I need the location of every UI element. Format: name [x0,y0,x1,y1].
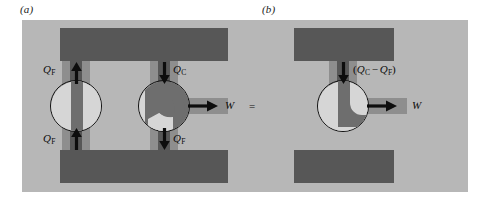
label-q-f-top-left-symbol: Q [43,63,51,75]
figure-canvas: (a) (b) [0,0,490,210]
label-w-panel-b-symbol: W [412,99,421,111]
label-q-difference-second-subscript: F [388,68,392,77]
label-q-f-bottom-right: QF [173,133,185,144]
label-q-difference-first-subscript: C [365,68,370,77]
label-q-f-bottom-right-subscript: F [181,137,185,146]
equals-sign: = [249,100,255,112]
panel-a-hot-reservoir-top [60,28,228,61]
panel-a-arrow-q-f-down-bottom [158,128,171,150]
label-q-f-bottom-left-symbol: Q [43,132,51,144]
panel-a-refrigerator-cycle [50,80,102,132]
panel-a-cold-reservoir-bottom [60,150,228,183]
heat-engine-cycle-graphic [139,81,190,132]
label-q-f-bottom-left: QF [43,133,55,144]
label-q-f-top-left-subscript: F [51,68,55,77]
refrigerator-cycle-graphic [51,81,102,132]
label-q-c-top-right: QC [173,64,186,75]
panel-b-arrow-q-diff-down [337,62,350,84]
label-q-difference-operator: − [372,63,378,75]
label-q-difference-second-symbol: Q [380,63,388,75]
label-q-difference-first-symbol: Q [357,63,365,75]
panel-b-cold-reservoir-bottom [294,150,394,183]
panel-b-combined-cycle [317,80,369,132]
panel-a-heat-engine-cycle [138,80,190,132]
diagram-field: QF QF QC QF W = (QC−QF) W [22,20,468,192]
combined-cycle-graphic [318,81,369,132]
label-w-panel-b: W [412,100,421,111]
label-q-c-top-right-subscript: C [181,68,186,77]
label-q-f-bottom-left-subscript: F [51,137,55,146]
panel-b-hot-reservoir-top [294,28,394,61]
panel-a-arrow-q-c-down-top [158,62,171,84]
panel-b-arrow-w-right [367,99,397,113]
label-q-difference: (QC−QF) [353,64,396,75]
label-q-difference-close-paren: ) [392,63,396,75]
panel-label-b: (b) [262,3,275,15]
panel-a-arrow-q-f-up-bottom [70,128,83,150]
panel-label-a: (a) [20,3,33,15]
label-w-panel-a: W [225,100,234,111]
label-q-f-bottom-right-symbol: Q [173,132,181,144]
label-q-f-top-left: QF [43,64,55,75]
panel-a-arrow-q-f-up-top [70,62,83,84]
label-q-c-top-right-symbol: Q [173,63,181,75]
panel-a-arrow-w-right [188,99,218,113]
label-w-panel-a-symbol: W [225,99,234,111]
